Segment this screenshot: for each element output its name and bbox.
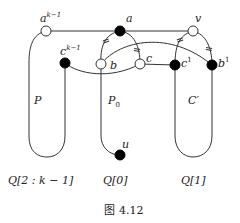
edge-mark-a-c	[134, 48, 140, 51]
loop-Cprime	[175, 65, 212, 157]
node-a	[115, 26, 125, 36]
diagram-canvas: ak−1 a v ck−1 b c c1 b1 u P P0 C′ Q[2 : …	[0, 0, 240, 223]
edge-mark-a-b	[103, 39, 109, 43]
node-u	[115, 150, 125, 160]
label-a: a	[126, 12, 133, 25]
node-c	[135, 59, 145, 69]
label-a-k-minus-1: ak−1	[40, 11, 61, 25]
node-c-k-minus-1	[60, 58, 70, 68]
label-u: u	[122, 138, 129, 151]
edge-b-b1	[101, 42, 212, 65]
label-b1: b1	[218, 56, 230, 70]
column-label-middle: Q[0]	[103, 174, 128, 187]
path-P0	[101, 64, 120, 155]
column-label-right: Q[1]	[181, 174, 206, 187]
region-label-P: P	[33, 94, 42, 107]
node-b1	[207, 60, 217, 70]
region-label-P0: P0	[107, 94, 120, 109]
edge-mark-v-b1	[206, 47, 212, 50]
node-a-k-minus-1	[41, 26, 51, 36]
column-label-left: Q[2 : k − 1]	[8, 174, 74, 187]
node-b	[96, 59, 106, 69]
label-c: c	[146, 52, 152, 65]
region-label-Cprime: C′	[188, 94, 199, 107]
label-b: b	[110, 59, 117, 72]
label-v: v	[195, 12, 202, 25]
node-c1	[170, 60, 180, 70]
figure-caption: 图4.12	[104, 204, 144, 217]
label-c-k-minus-1: ck−1	[60, 44, 81, 58]
label-c1: c1	[181, 56, 192, 70]
node-v	[188, 26, 198, 36]
